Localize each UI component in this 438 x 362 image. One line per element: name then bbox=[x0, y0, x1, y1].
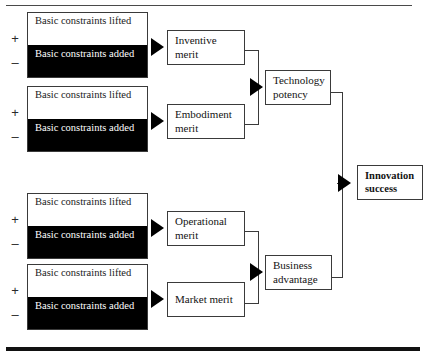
minus-sign-embodiment: – bbox=[9, 129, 21, 144]
arrow-to-embodiment-merit bbox=[151, 112, 164, 130]
box-business-advantage: Business advantage bbox=[265, 255, 332, 290]
arrow-to-business-advantage bbox=[250, 263, 263, 281]
constraints-added-label: Basic constraints added bbox=[28, 119, 147, 151]
diagram-canvas: + – Basic constraints lifted Basic const… bbox=[0, 0, 438, 362]
box-market-merit: Market merit bbox=[167, 282, 245, 317]
arrow-to-inventive-merit bbox=[151, 38, 164, 56]
constraints-added-label: Basic constraints added bbox=[28, 297, 147, 329]
box-innovation-success: Innovation success bbox=[357, 165, 423, 200]
constraints-added-label: Basic constraints added bbox=[28, 45, 147, 77]
constraint-block-inventive: Basic constraints lifted Basic constrain… bbox=[27, 12, 148, 78]
plus-sign-operational: + bbox=[9, 212, 21, 227]
connector-operational-out bbox=[245, 231, 259, 232]
constraints-lifted-label: Basic constraints lifted bbox=[28, 194, 147, 226]
box-inventive-merit: Inventive merit bbox=[167, 30, 245, 65]
constraints-lifted-label: Basic constraints lifted bbox=[28, 13, 147, 45]
connector-inventive-out bbox=[245, 50, 259, 51]
minus-sign-market: – bbox=[9, 307, 21, 322]
bottom-rule bbox=[6, 347, 420, 351]
constraint-block-market: Basic constraints lifted Basic constrain… bbox=[27, 264, 148, 330]
arrow-to-technology-potency bbox=[250, 78, 263, 96]
minus-sign-inventive: – bbox=[9, 55, 21, 70]
constraints-lifted-label: Basic constraints lifted bbox=[28, 87, 147, 119]
box-technology-potency: Technology potency bbox=[265, 70, 331, 105]
plus-sign-inventive: + bbox=[9, 31, 21, 46]
constraints-lifted-label: Basic constraints lifted bbox=[28, 265, 147, 297]
box-embodiment-merit: Embodiment merit bbox=[167, 104, 245, 139]
arrow-to-market-merit bbox=[151, 290, 164, 308]
box-operational-merit: Operational merit bbox=[167, 211, 245, 246]
arrow-to-operational-merit bbox=[151, 219, 164, 237]
constraints-added-label: Basic constraints added bbox=[28, 226, 147, 258]
plus-sign-market: + bbox=[9, 283, 21, 298]
arrow-to-innovation-success bbox=[338, 174, 351, 192]
plus-sign-embodiment: + bbox=[9, 105, 21, 120]
connector-embodiment-out bbox=[245, 124, 259, 125]
top-rule bbox=[6, 5, 412, 6]
connector-market-out bbox=[245, 303, 259, 304]
minus-sign-operational: – bbox=[9, 236, 21, 251]
constraint-block-operational: Basic constraints lifted Basic constrain… bbox=[27, 193, 148, 259]
constraint-block-embodiment: Basic constraints lifted Basic constrain… bbox=[27, 86, 148, 152]
